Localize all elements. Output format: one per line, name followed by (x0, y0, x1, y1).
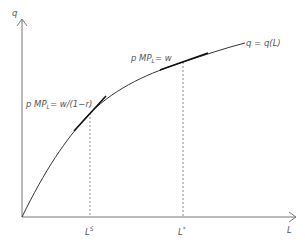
production-curve (22, 43, 245, 217)
curve-label: q = q(L) (246, 39, 281, 48)
x-tick-lstar-sup: * (183, 225, 186, 232)
x-tick-ls: LS (85, 226, 94, 237)
x-tick-lstar: L* (178, 226, 186, 237)
curve-label-text: q = q(L) (246, 38, 281, 48)
tangent-label-lstar: p MPL= w (131, 54, 172, 64)
tangent-label-ls-suffix: = w/(1−r) (50, 99, 92, 109)
x-axis-label: L (287, 226, 292, 235)
tangent-label-ls: p MPL= w/(1−r) (26, 100, 92, 110)
x-tick-ls-sup: S (90, 225, 94, 232)
production-function-diagram: q L q = q(L) p MPL= w/(1−r) p MPL= w LS … (0, 0, 305, 247)
y-axis-label-text: q (12, 8, 17, 18)
y-axis-label: q (12, 9, 17, 18)
tangent-label-lstar-prefix: p MP (131, 53, 152, 63)
tangent-label-ls-prefix: p MP (26, 99, 47, 109)
x-axis-label-text: L (287, 225, 292, 235)
tangent-label-lstar-suffix: = w (155, 53, 172, 63)
